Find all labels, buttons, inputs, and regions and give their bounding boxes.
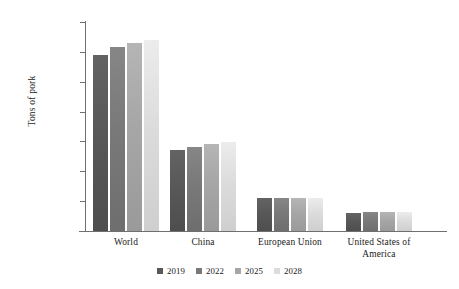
x-axis-category-label: United States ofAmerica bbox=[329, 236, 429, 260]
category-label-line: China bbox=[153, 236, 253, 248]
x-axis-category-label: European Union bbox=[240, 236, 340, 248]
y-axis-title: Tons of pork bbox=[27, 53, 37, 149]
legend-swatch-icon bbox=[196, 268, 202, 274]
y-axis-tick: 140,000,000 bbox=[0, 22, 85, 23]
bar bbox=[363, 212, 378, 231]
category-label-line: United States of bbox=[329, 236, 429, 248]
bar bbox=[170, 150, 185, 231]
y-axis-tick: 20,000,000 bbox=[0, 201, 85, 202]
legend-item-2028[interactable]: 2028 bbox=[274, 266, 302, 276]
category-label-line: European Union bbox=[240, 236, 340, 248]
bar bbox=[93, 55, 108, 231]
cropped-corner-artifact bbox=[405, 0, 445, 3]
y-axis-tick: 40,000,000 bbox=[0, 171, 85, 172]
bar bbox=[308, 198, 323, 231]
legend-item-2022[interactable]: 2022 bbox=[196, 266, 224, 276]
bar bbox=[110, 47, 125, 231]
bar bbox=[187, 147, 202, 231]
bar-group bbox=[257, 22, 323, 231]
y-axis-tick: 100,000,000 bbox=[0, 82, 85, 83]
bar bbox=[144, 40, 159, 231]
legend-swatch-icon bbox=[235, 268, 241, 274]
bar bbox=[380, 212, 395, 231]
legend-label: 2022 bbox=[206, 266, 224, 276]
plot-area bbox=[85, 22, 451, 231]
legend-label: 2028 bbox=[284, 266, 302, 276]
legend-label: 2025 bbox=[245, 266, 263, 276]
bar-group bbox=[170, 22, 236, 231]
y-axis-tick: 120,000,000 bbox=[0, 52, 85, 53]
bar bbox=[204, 144, 219, 231]
legend-swatch-icon bbox=[157, 268, 163, 274]
bar-chart: Tons of pork 140,000,000120,000,000100,0… bbox=[0, 0, 459, 289]
y-axis-tick-mark bbox=[79, 231, 83, 232]
bar bbox=[274, 198, 289, 231]
legend-label: 2019 bbox=[167, 266, 185, 276]
bar-group bbox=[93, 22, 159, 231]
y-axis-tick: 60,000,000 bbox=[0, 141, 85, 142]
bar bbox=[221, 142, 236, 231]
cropped-title-artifact bbox=[48, 0, 218, 4]
x-axis-line bbox=[79, 231, 447, 232]
chart-legend: 2019202220252028 bbox=[0, 266, 459, 276]
bar-group bbox=[346, 22, 412, 231]
y-axis-tick: 80,000,000 bbox=[0, 112, 85, 113]
legend-item-2019[interactable]: 2019 bbox=[157, 266, 185, 276]
x-axis-category-label: China bbox=[153, 236, 253, 248]
bar bbox=[346, 213, 361, 231]
y-axis-tick bbox=[0, 231, 85, 232]
legend-item-2025[interactable]: 2025 bbox=[235, 266, 263, 276]
bar bbox=[291, 198, 306, 231]
legend-swatch-icon bbox=[274, 268, 280, 274]
category-label-line: America bbox=[329, 248, 429, 260]
bar bbox=[127, 43, 142, 231]
bar bbox=[397, 212, 412, 231]
bar bbox=[257, 198, 272, 231]
